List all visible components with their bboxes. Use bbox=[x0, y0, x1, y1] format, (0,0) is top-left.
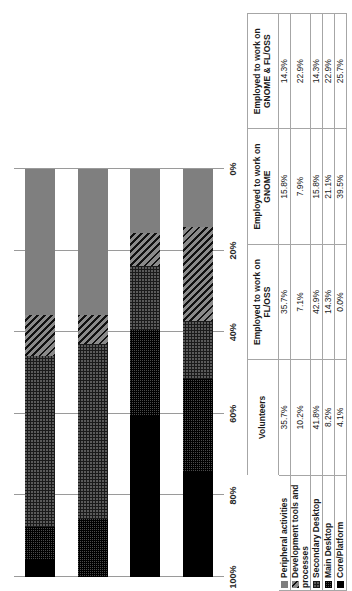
table-corner-cell bbox=[248, 475, 279, 590]
table-cell-r4-c2: 39.5% bbox=[335, 129, 347, 244]
legend-item-label: Secondary Desktop bbox=[311, 499, 321, 578]
bar-segment-2-0[interactable] bbox=[130, 169, 160, 233]
bar-segment-1-1[interactable] bbox=[78, 315, 108, 344]
table-cell-r1-c1: 7.1% bbox=[291, 244, 311, 359]
bar-segment-0-2[interactable] bbox=[25, 356, 55, 527]
legend-swatch-icon bbox=[337, 581, 344, 588]
legend-item-label: Core/Platform bbox=[335, 522, 345, 578]
table-cell-r1-c0: 10.2% bbox=[291, 360, 311, 475]
chart-canvas: 100%80%60%40%20%0% Volunteers Employed t… bbox=[0, 0, 352, 591]
legend-item-label: Development tools and processes bbox=[290, 484, 310, 588]
table-cell-r2-c1: 42.9% bbox=[311, 244, 323, 359]
table-header-row: Volunteers Employed to work on FL/OSS Em… bbox=[248, 14, 279, 591]
value-axis-tick-labels: 100%80%60%40%20%0% bbox=[228, 169, 246, 577]
table-cell-r2-c2: 15.8% bbox=[311, 129, 323, 244]
table-row: Secondary Desktop41.8%42.9%15.8%14.3% bbox=[311, 14, 323, 591]
column-header-volunteers: Volunteers bbox=[248, 360, 279, 475]
bar-1[interactable] bbox=[78, 169, 108, 577]
bar-segment-0-4[interactable] bbox=[25, 560, 55, 577]
tick-label-60: 60% bbox=[228, 405, 238, 423]
bar-segment-3-1[interactable] bbox=[183, 227, 213, 320]
table-cell-r2-c3: 14.3% bbox=[311, 14, 323, 129]
table-cell-r1-c2: 7.9% bbox=[291, 129, 311, 244]
table-row: Main Desktop8.2%14.3%21.1%22.9% bbox=[323, 14, 335, 591]
legend-item-label: Peripheral activities bbox=[279, 498, 289, 578]
bar-3[interactable] bbox=[183, 169, 213, 577]
tick-label-0: 0% bbox=[228, 162, 238, 175]
bar-segment-1-0[interactable] bbox=[78, 169, 108, 315]
legend-item-1[interactable]: Development tools and processes bbox=[291, 475, 311, 590]
bar-segment-1-2[interactable] bbox=[78, 344, 108, 519]
bar-segment-3-2[interactable] bbox=[183, 321, 213, 379]
table-cell-r3-c2: 21.1% bbox=[323, 129, 335, 244]
legend-swatch-icon bbox=[292, 581, 299, 588]
table-cell-r0-c2: 15.8% bbox=[279, 129, 291, 244]
bar-segment-0-3[interactable] bbox=[25, 527, 55, 560]
bar-segment-2-1[interactable] bbox=[130, 233, 160, 265]
bar-segment-0-0[interactable] bbox=[25, 169, 55, 315]
plot-area bbox=[14, 169, 224, 577]
bar-segment-2-2[interactable] bbox=[130, 266, 160, 330]
table-row: Peripheral activities35.7%35.7%15.8%14.3… bbox=[279, 14, 291, 591]
legend-swatch-icon bbox=[313, 581, 320, 588]
table-cell-r2-c0: 41.8% bbox=[311, 360, 323, 475]
tick-label-100: 100% bbox=[228, 565, 238, 588]
legend-item-label: Main Desktop bbox=[323, 523, 333, 578]
data-table: Volunteers Employed to work on FL/OSS Em… bbox=[247, 13, 347, 591]
bar-segment-3-4[interactable] bbox=[183, 472, 213, 577]
bar-segment-1-3[interactable] bbox=[78, 519, 108, 577]
table-cell-r4-c1: 0.0% bbox=[335, 244, 347, 359]
bar-segment-2-3[interactable] bbox=[130, 330, 160, 416]
table-cell-r3-c3: 22.9% bbox=[323, 14, 335, 129]
legend-item-3[interactable]: Main Desktop bbox=[323, 475, 335, 590]
bar-segment-2-4[interactable] bbox=[130, 416, 160, 577]
column-header-gnome-floss: Employed to work on GNOME & FL/OSS bbox=[248, 14, 279, 129]
bar-0[interactable] bbox=[25, 169, 55, 577]
tick-label-20: 20% bbox=[228, 242, 238, 260]
table-cell-r4-c0: 4.1% bbox=[335, 360, 347, 475]
table-cell-r0-c3: 14.3% bbox=[279, 14, 291, 129]
legend-swatch-icon bbox=[325, 581, 332, 588]
table-body: Peripheral activities35.7%35.7%15.8%14.3… bbox=[279, 14, 347, 591]
legend-item-4[interactable]: Core/Platform bbox=[335, 475, 347, 590]
table-cell-r0-c0: 35.7% bbox=[279, 360, 291, 475]
legend-item-0[interactable]: Peripheral activities bbox=[279, 475, 291, 590]
bar-segment-3-3[interactable] bbox=[183, 379, 213, 472]
table-cell-r4-c3: 25.7% bbox=[335, 14, 347, 129]
tick-label-80: 80% bbox=[228, 486, 238, 504]
table-row: Development tools and processes10.2%7.1%… bbox=[291, 14, 311, 591]
bar-segment-3-0[interactable] bbox=[183, 169, 213, 227]
column-header-gnome: Employed to work on GNOME bbox=[248, 129, 279, 244]
table-cell-r0-c1: 35.7% bbox=[279, 244, 291, 359]
tick-label-40: 40% bbox=[228, 323, 238, 341]
table-cell-r1-c3: 22.9% bbox=[291, 14, 311, 129]
rotated-chart-host: 100%80%60%40%20%0% Volunteers Employed t… bbox=[0, 0, 352, 591]
column-header-floss: Employed to work on FL/OSS bbox=[248, 244, 279, 359]
table-cell-r3-c0: 8.2% bbox=[323, 360, 335, 475]
table-row: Core/Platform4.1%0.0%39.5%25.7% bbox=[335, 14, 347, 591]
bar-2[interactable] bbox=[130, 169, 160, 577]
legend-item-2[interactable]: Secondary Desktop bbox=[311, 475, 323, 590]
bar-segment-0-1[interactable] bbox=[25, 315, 55, 357]
legend-swatch-icon bbox=[281, 581, 288, 588]
table-cell-r3-c1: 14.3% bbox=[323, 244, 335, 359]
